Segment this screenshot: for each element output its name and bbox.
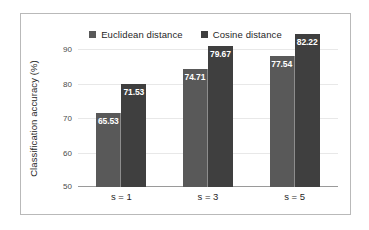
bar-group: 65.53 71.53 [96,49,146,187]
bar-series-container: 65.53 71.53 74.71 79.67 77.54 82 [78,49,338,187]
bar-euclidean-distance: 77.54 [270,56,295,187]
y-axis-tick-label: 50 [63,182,72,191]
bar-euclidean-distance: 65.53 [96,113,121,187]
bar-group: 74.71 79.67 [183,49,233,187]
legend-item-cosine-distance: Cosine distance [201,29,282,40]
legend-swatch-icon [89,31,96,38]
legend-item-euclidean-distance: Euclidean distance [89,29,183,40]
bar-value-label: 71.53 [121,87,146,97]
x-axis-tick-label: s = 1 [96,191,146,202]
bar-cosine-distance: 71.53 [121,84,146,187]
plot-area: 90 80 70 60 50 65.53 71.53 74 [78,49,338,187]
x-axis-tick-label: s = 3 [183,191,233,202]
y-axis-tick-label: 90 [63,45,72,54]
bar-cosine-distance: 82.22 [295,34,320,187]
y-axis-tick-label: 60 [63,148,72,157]
x-axis-tick-labels: s = 1 s = 3 s = 5 [78,191,338,207]
bar-group: 77.54 82.22 [270,49,320,187]
chart-figure: Euclidean distance Cosine distance Class… [0,0,369,230]
y-axis-tick-label: 80 [63,79,72,88]
y-axis-title: Classification accuracy (%) [26,49,40,187]
bar-value-label: 82.22 [295,37,320,47]
y-axis-tick-label: 70 [63,114,72,123]
bar-euclidean-distance: 74.71 [183,69,208,187]
legend-swatch-icon [201,31,208,38]
bar-cosine-distance: 79.67 [208,46,233,187]
legend-label: Euclidean distance [101,29,183,40]
bar-value-label: 79.67 [208,49,233,59]
bar-value-label: 77.54 [270,59,294,69]
bar-value-label: 74.71 [183,72,207,82]
y-axis-title-text: Classification accuracy (%) [28,60,39,177]
x-axis-tick-label: s = 5 [270,191,320,202]
bar-value-label: 65.53 [96,116,120,126]
legend-label: Cosine distance [213,29,282,40]
